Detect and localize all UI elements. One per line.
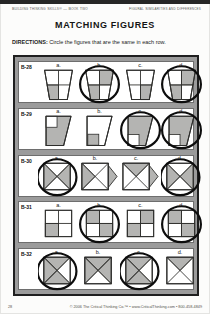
figure-svg: c. [120, 106, 161, 150]
figure-B-28-b: b. [79, 60, 120, 104]
figure-svg: c. [120, 247, 161, 291]
figure-letter: b. [97, 62, 102, 68]
figure-svg: d. [161, 153, 202, 197]
row-label: B-30 [21, 158, 32, 164]
directions-label: DIRECTIONS: [12, 39, 48, 45]
figure-letter: d. [178, 155, 183, 161]
figure-B-29-a: a. [38, 106, 79, 150]
figure-letter: c. [134, 155, 139, 161]
row-label: B-31 [21, 204, 32, 210]
figure-letter: b. [96, 249, 101, 255]
row-figures: a.b.c.d. [38, 201, 192, 242]
figure-B-29-c: c. [120, 106, 161, 150]
worksheet-frame: B-28a.b.c.d.B-29a.b.c.d.B-30a.b.c.d.B-31… [13, 55, 199, 296]
figure-B-31-d: d. [161, 200, 202, 244]
figure-B-30-b: b. [79, 153, 120, 197]
figure-letter: a. [56, 109, 61, 115]
directions-text: Circle the figures that are the same in … [48, 39, 166, 45]
figure-svg: b. [79, 106, 120, 150]
figure-B-31-a: a. [38, 200, 79, 244]
figure-svg: a. [38, 200, 79, 244]
figure-letter: d. [179, 109, 184, 115]
header-book-title: Building Thinking Skills® — Book Two [12, 7, 88, 11]
figure-B-31-b: b. [79, 200, 120, 244]
figure-letter: a. [55, 155, 60, 161]
row-figures: a.b.c.d. [38, 61, 192, 102]
figure-B-31-c: c. [120, 200, 161, 244]
figure-letter: c. [138, 62, 143, 68]
figure-letter: c. [137, 249, 142, 255]
figure-letter: c. [138, 109, 143, 115]
figure-B-30-a: a. [38, 153, 79, 197]
figure-svg: b. [79, 60, 120, 104]
worksheet-page: Building Thinking Skills® — Book Two Fig… [0, 0, 210, 314]
exercise-row-B-28: B-28a.b.c.d. [18, 61, 194, 103]
page-title: MATCHING FIGURES [0, 20, 210, 30]
figure-svg: d. [161, 200, 202, 244]
figure-B-28-d: d. [161, 60, 202, 104]
figure-svg: a. [38, 153, 79, 197]
scan-edge-band [0, 0, 210, 4]
figure-letter: d. [179, 62, 184, 68]
header-section-title: Figural Similarities and Differences [129, 7, 201, 11]
figure-svg: a. [38, 247, 79, 291]
figure-svg: d. [161, 106, 202, 150]
figure-B-28-a: a. [38, 60, 79, 104]
row-figures: a.b.c.d. [38, 108, 192, 149]
directions: DIRECTIONS: Circle the figures that are … [12, 39, 204, 45]
figure-letter: d. [179, 202, 184, 208]
exercise-row-B-29: B-29a.b.c.d. [18, 108, 194, 150]
figure-letter: b. [97, 202, 102, 208]
figure-svg: b. [79, 247, 120, 291]
row-label: B-28 [21, 64, 32, 70]
figure-B-32-b: b. [79, 247, 120, 291]
figure-B-32-d: d. [161, 247, 202, 291]
figure-B-30-d: d. [161, 153, 202, 197]
figure-letter: d. [178, 249, 183, 255]
figure-letter: c. [138, 202, 143, 208]
exercise-row-B-32: B-32a.b.c.d. [18, 248, 194, 290]
figure-letter: a. [55, 249, 60, 255]
figure-svg: d. [161, 247, 202, 291]
copyright-line: © 2006 The Critical Thinking Co.™ • www.… [70, 305, 202, 309]
figure-letter: a. [56, 62, 61, 68]
row-figures: a.b.c.d. [38, 248, 192, 289]
figure-svg: c. [120, 200, 161, 244]
exercise-row-B-31: B-31a.b.c.d. [18, 201, 194, 243]
figure-B-32-c: c. [120, 247, 161, 291]
figure-B-29-b: b. [79, 106, 120, 150]
figure-svg: a. [38, 106, 79, 150]
figure-B-29-d: d. [161, 106, 202, 150]
figure-B-30-c: c. [120, 153, 161, 197]
exercise-row-B-30: B-30a.b.c.d. [18, 155, 194, 197]
figure-svg: b. [79, 200, 120, 244]
figure-letter: b. [97, 109, 102, 115]
figure-svg: c. [120, 60, 161, 104]
figure-B-28-c: c. [120, 60, 161, 104]
figure-svg: d. [161, 60, 202, 104]
page-number: 28 [8, 305, 12, 309]
figure-letter: b. [93, 155, 98, 161]
figure-B-32-a: a. [38, 247, 79, 291]
figure-letter: a. [56, 202, 61, 208]
figure-svg: a. [38, 60, 79, 104]
row-label: B-29 [21, 111, 32, 117]
row-label: B-32 [21, 251, 32, 257]
row-figures: a.b.c.d. [38, 155, 192, 196]
figure-svg: b. [79, 153, 120, 197]
figure-svg: c. [120, 153, 161, 197]
